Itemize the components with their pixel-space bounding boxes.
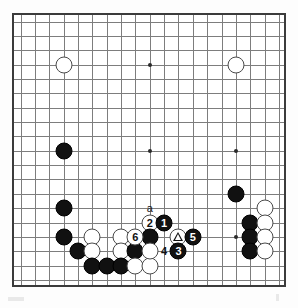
- move-number-label: 5: [184, 228, 201, 245]
- go-diagram-figure: 123456a: [0, 0, 298, 308]
- white-stone[interactable]: [256, 243, 273, 260]
- black-stone[interactable]: [227, 185, 244, 202]
- black-stone[interactable]: [55, 200, 72, 217]
- grid-line-vertical: [207, 15, 208, 285]
- star-point: [234, 149, 238, 153]
- star-point: [234, 235, 238, 239]
- triangle-marker-icon: [173, 232, 183, 241]
- star-point: [148, 63, 152, 67]
- grid-line-vertical: [279, 15, 280, 285]
- grid-line-horizontal: [14, 179, 284, 180]
- black-stone[interactable]: [55, 228, 72, 245]
- scan-artifact-right: [276, 294, 279, 301]
- grid-line-horizontal: [14, 165, 284, 166]
- black-stone[interactable]: [55, 142, 72, 159]
- move-number-label: 6: [127, 228, 144, 245]
- grid-line-vertical: [222, 15, 223, 285]
- white-stone[interactable]: [227, 56, 244, 73]
- white-stone[interactable]: [55, 56, 72, 73]
- move-number-label: 4: [156, 243, 173, 260]
- scan-artifact-left: [8, 297, 24, 301]
- point-label: a: [143, 201, 157, 215]
- grid-line-horizontal: [14, 280, 284, 281]
- go-board[interactable]: 123456a: [12, 13, 286, 287]
- star-point: [148, 149, 152, 153]
